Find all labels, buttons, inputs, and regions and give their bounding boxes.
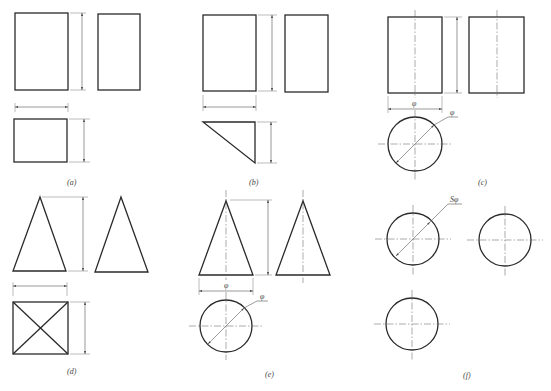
length-dimension — [13, 282, 67, 296]
side-view-triangle — [95, 197, 148, 272]
panel-c-cylinder: φ φ (c) — [378, 10, 524, 187]
caption-c: (c) — [478, 178, 487, 187]
panel-a-cuboid: (a) — [14, 13, 140, 187]
diameter-symbol: φ — [224, 281, 229, 290]
three-view-dimensioning-figure: (a) (b) — [0, 0, 551, 391]
diameter-symbol: φ — [260, 292, 265, 301]
caption-b: (b) — [249, 178, 259, 187]
height-dimension — [230, 200, 272, 275]
diameter-leader: φ — [208, 292, 268, 344]
length-dimension — [15, 103, 68, 112]
sphere-diameter-leader: Sφ — [396, 195, 462, 256]
sphere-diameter-symbol: Sφ — [450, 195, 459, 204]
width-dimension — [70, 302, 90, 354]
diameter-leader: φ — [396, 108, 458, 163]
side-view-rect — [285, 15, 328, 92]
diameter-symbol: φ — [450, 108, 455, 117]
caption-e: (e) — [265, 370, 274, 379]
top-view-rect — [14, 119, 67, 162]
caption-a: (a) — [67, 178, 77, 187]
width-dimension — [257, 122, 277, 163]
panel-e-cone: φ φ (e) — [189, 190, 330, 379]
height-dimension — [42, 197, 88, 271]
front-view-rect — [15, 13, 68, 90]
panel-b-triangular-prism: (b) — [203, 15, 328, 187]
caption-f: (f) — [463, 371, 471, 380]
width-dimension — [69, 119, 90, 162]
front-view-rect — [203, 15, 256, 91]
height-dimension — [444, 17, 462, 93]
height-dimension — [70, 13, 86, 90]
diameter-symbol: φ — [412, 99, 417, 108]
side-view-rect — [469, 17, 524, 93]
top-view-triangle — [203, 122, 255, 163]
height-dimension — [258, 15, 277, 91]
panel-d-square-pyramid: (d) — [13, 197, 148, 376]
side-view-rect — [98, 14, 140, 90]
front-view-triangle — [13, 197, 66, 271]
caption-d: (d) — [67, 367, 77, 376]
panel-f-sphere: Sφ (f) — [374, 195, 543, 380]
length-dimension — [203, 95, 256, 111]
